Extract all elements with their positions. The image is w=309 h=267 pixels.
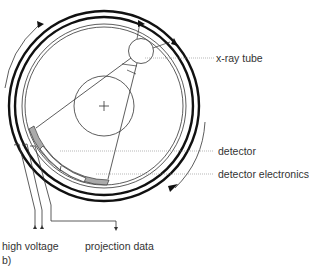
label-detector: detector	[218, 146, 256, 157]
high-voltage-arrow-icon	[33, 225, 37, 229]
label-xray-tube: x-ray tube	[216, 53, 263, 64]
fan-beam-edge-right	[108, 63, 137, 179]
fan-beam-edge-left	[36, 58, 131, 128]
high-voltage-arrow-icon-2	[40, 225, 44, 229]
projection-data-arrow-icon	[114, 227, 118, 231]
collimator-1	[122, 64, 137, 66]
label-projection-data: projection data	[85, 241, 154, 252]
label-detector-electronics: detector electronics	[218, 169, 309, 180]
label-high-voltage: high voltage	[2, 241, 59, 252]
rotation-arrow-bottom-icon	[168, 184, 178, 192]
subfigure-label: b)	[2, 255, 11, 266]
ct-gantry-diagram	[0, 0, 309, 267]
isocenter-cross-icon	[99, 101, 109, 111]
xray-tube-circle	[129, 39, 154, 64]
rotation-arrow-left-icon	[37, 21, 44, 28]
